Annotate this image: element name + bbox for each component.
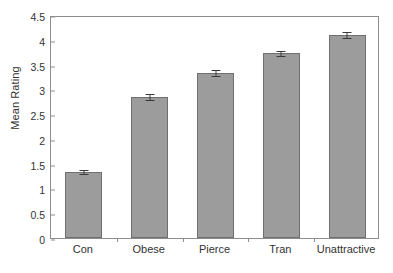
error-bar-cap-top	[343, 32, 352, 33]
x-axis-label: Pierce	[182, 244, 248, 255]
x-tick-mark	[248, 238, 249, 242]
bar	[263, 53, 300, 238]
y-tick-label: 4.5	[30, 12, 51, 23]
bar-series	[51, 17, 378, 238]
bar-group	[197, 15, 234, 238]
error-bar-cap-bottom	[211, 76, 220, 77]
bar-chart-figure: Mean Rating 00.511.522.533.544.5 ConObes…	[0, 0, 393, 273]
bar	[65, 172, 102, 238]
y-axis-title: Mean Rating	[9, 43, 21, 153]
x-axis-label: Obese	[116, 244, 182, 255]
x-tick-mark	[117, 238, 118, 242]
plot-area: 00.511.522.533.544.5	[50, 16, 379, 239]
error-bar-cap-top	[277, 51, 286, 52]
error-bar-cap-bottom	[145, 100, 154, 101]
bar-group	[65, 15, 102, 238]
bar	[329, 35, 366, 238]
error-bar-cap-bottom	[343, 38, 352, 39]
y-tick-label: 3	[39, 86, 51, 97]
y-tick-label: 1	[39, 185, 51, 196]
bar-group	[263, 15, 300, 238]
y-tick-label: 3.5	[30, 61, 51, 72]
error-bar-cap-top	[79, 170, 88, 171]
bar	[131, 97, 168, 238]
error-bar-cap-bottom	[79, 174, 88, 175]
y-tick-label: 2.5	[30, 111, 51, 122]
y-tick-mark	[51, 240, 55, 241]
y-tick-label: 2	[39, 136, 51, 147]
bar-group	[131, 15, 168, 238]
x-tick-mark	[183, 238, 184, 242]
bar	[197, 73, 234, 238]
bar-group	[329, 15, 366, 238]
y-tick-label: 1.5	[30, 160, 51, 171]
y-tick-label: 4	[39, 37, 51, 48]
x-axis-label: Tran	[247, 244, 313, 255]
x-tick-mark	[314, 238, 315, 242]
error-bar-cap-bottom	[277, 56, 286, 57]
error-bar-cap-top	[211, 70, 220, 71]
error-bar-cap-top	[145, 94, 154, 95]
y-tick-label: 0.5	[30, 210, 51, 221]
x-axis-label: Con	[50, 244, 116, 255]
x-axis-label: Unattractive	[313, 244, 379, 255]
